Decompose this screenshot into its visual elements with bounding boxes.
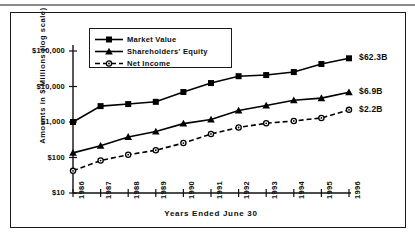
data-point-marker-core bbox=[348, 109, 350, 111]
data-point-marker-core bbox=[155, 149, 157, 151]
x-axis-tick-label: 1994 bbox=[297, 181, 306, 199]
x-axis-tick-label: 1992 bbox=[242, 181, 251, 199]
data-point-marker bbox=[236, 73, 242, 79]
data-point-marker-core bbox=[72, 170, 74, 172]
legend-label: Market Value bbox=[127, 35, 176, 44]
x-axis-tick-label: 1988 bbox=[132, 181, 141, 199]
x-axis-tick-label: 1989 bbox=[159, 181, 168, 199]
data-point-marker-core bbox=[108, 62, 110, 64]
data-point-marker bbox=[125, 101, 131, 107]
data-point-marker-core bbox=[183, 142, 185, 144]
data-point-marker bbox=[106, 36, 112, 42]
data-point-marker bbox=[345, 88, 353, 95]
x-axis-tick-label: 1995 bbox=[325, 181, 334, 199]
top-divider-rule bbox=[0, 4, 415, 6]
data-point-marker-core bbox=[127, 154, 129, 156]
data-point-marker-core bbox=[210, 133, 212, 135]
legend-swatch-triangle-icon bbox=[94, 46, 124, 57]
data-point-marker-core bbox=[265, 122, 267, 124]
y-axis-tick-label: $1,000 bbox=[11, 117, 65, 126]
series-end-label: $6.9B bbox=[359, 86, 383, 96]
x-axis-tick-label: 1987 bbox=[104, 181, 113, 199]
x-axis-tick-label: 1996 bbox=[353, 181, 362, 199]
data-point-marker bbox=[346, 55, 352, 61]
x-axis-tick-label: 1986 bbox=[77, 181, 86, 199]
x-axis-tick-label: 1993 bbox=[270, 181, 279, 199]
data-point-marker-core bbox=[321, 117, 323, 119]
legend-swatch-square-icon bbox=[94, 34, 124, 45]
x-axis-tick-label: 1990 bbox=[187, 181, 196, 199]
x-axis-title: Years Ended June 30 bbox=[66, 209, 356, 218]
chart-legend: Market ValueShareholders' EquityNet Inco… bbox=[89, 28, 232, 68]
figure-root: Amounts in $ Millions (log scale) Years … bbox=[0, 0, 415, 241]
legend-item[interactable]: Shareholders' Equity bbox=[94, 45, 208, 57]
y-axis-tick-label: $10,000 bbox=[11, 82, 65, 91]
y-axis-tick-label: $10 bbox=[11, 188, 65, 197]
data-point-marker-core bbox=[238, 127, 240, 129]
y-axis-title: Amounts in $ Millions (log scale) bbox=[38, 1, 47, 151]
legend-swatch-circle-icon bbox=[94, 58, 124, 69]
data-point-marker bbox=[180, 89, 186, 95]
legend-item[interactable]: Market Value bbox=[94, 33, 176, 45]
data-point-marker bbox=[208, 80, 214, 86]
series-end-label: $62.3B bbox=[359, 52, 388, 62]
y-axis-tick-label: $100,000 bbox=[11, 46, 65, 55]
data-point-marker-core bbox=[293, 120, 295, 122]
data-point-marker bbox=[70, 119, 76, 125]
data-point-marker-core bbox=[100, 160, 102, 162]
data-point-marker bbox=[263, 72, 269, 78]
data-point-marker bbox=[153, 99, 159, 105]
legend-label: Shareholders' Equity bbox=[127, 47, 208, 56]
legend-item[interactable]: Net Income bbox=[94, 57, 170, 69]
data-point-marker bbox=[98, 103, 104, 109]
y-axis-tick-label: $100 bbox=[11, 153, 65, 162]
legend-label: Net Income bbox=[127, 59, 170, 68]
data-point-marker bbox=[318, 61, 324, 67]
chart-frame: Amounts in $ Millions (log scale) Years … bbox=[10, 12, 406, 228]
series-end-label: $2.2B bbox=[359, 104, 383, 114]
data-point-marker bbox=[291, 69, 297, 75]
x-axis-tick-label: 1991 bbox=[215, 181, 224, 199]
series-shareholders-equity bbox=[69, 88, 353, 155]
